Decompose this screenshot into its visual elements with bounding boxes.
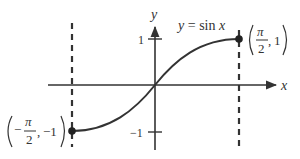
min-point-dot [68,127,76,135]
max-point-annotation: π 2 , 1 [250,24,287,56]
svg-text:−: − [14,122,21,137]
y-tick-label-1: 1 [138,33,144,47]
x-axis-label: x [280,78,288,93]
svg-text:2: 2 [26,132,33,147]
svg-text:1: 1 [274,33,281,48]
svg-text:π: π [257,24,264,39]
svg-text:,: , [268,33,271,48]
svg-text:,: , [37,124,40,139]
function-label: y = sin x [176,18,226,33]
min-point-annotation: − π 2 , −1 [8,114,65,147]
y-axis-label: y [149,7,158,22]
sine-graph: y x 1 −1 y = sin x π 2 , 1 − π 2 , −1 [0,0,300,159]
svg-text:−1: −1 [43,124,57,139]
max-point-dot [235,35,243,43]
svg-text:π: π [25,114,32,129]
svg-text:2: 2 [258,41,265,56]
y-tick-label-neg1: −1 [130,126,143,140]
